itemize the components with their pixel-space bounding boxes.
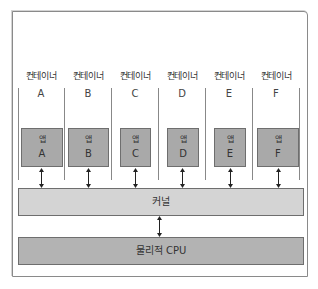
app-letter: D (168, 148, 198, 160)
double-arrow-icon (156, 216, 163, 237)
container-letter-d: D (157, 88, 207, 100)
container-label-f: 컨테이너 (251, 70, 301, 82)
kernel-label: 커널 (152, 196, 170, 207)
app-label: 앱 (22, 135, 62, 145)
container-divider (158, 88, 159, 180)
container-divider (64, 88, 65, 180)
app-label: 앱 (168, 135, 198, 145)
app-box-c: 앱 C (120, 128, 151, 167)
container-letter-b: B (63, 88, 113, 100)
app-letter: F (258, 148, 298, 160)
kernel-bar: 커널 (18, 188, 304, 216)
app-letter: B (69, 148, 108, 160)
container-letter-a: A (16, 88, 66, 100)
app-letter: C (121, 148, 150, 160)
container-letter-c: C (110, 88, 160, 100)
app-letter: E (215, 148, 245, 160)
double-arrow-icon (227, 168, 234, 188)
double-arrow-icon (38, 168, 45, 188)
container-divider (111, 88, 112, 180)
cpu-bar: 물리적 CPU (18, 237, 304, 265)
container-label-b: 컨테이너 (63, 70, 113, 82)
cpu-label: 물리적 CPU (136, 245, 187, 256)
container-letter-e: E (204, 88, 254, 100)
app-label: 앱 (69, 135, 108, 145)
app-label: 앱 (121, 135, 150, 145)
double-arrow-icon (132, 168, 139, 188)
app-label: 앱 (258, 135, 298, 145)
container-label-d: 컨테이너 (157, 70, 207, 82)
container-divider (299, 88, 300, 180)
container-label-e: 컨테이너 (204, 70, 254, 82)
app-label: 앱 (215, 135, 245, 145)
double-arrow-icon (275, 168, 282, 188)
container-label-c: 컨테이너 (110, 70, 160, 82)
container-divider (205, 88, 206, 180)
container-label-a: 컨테이너 (16, 70, 66, 82)
app-box-f: 앱 F (257, 128, 299, 167)
container-divider (18, 88, 19, 180)
double-arrow-icon (85, 168, 92, 188)
app-box-e: 앱 E (214, 128, 246, 167)
double-arrow-icon (179, 168, 186, 188)
app-box-b: 앱 B (68, 128, 109, 167)
container-divider (252, 88, 253, 180)
container-letter-f: F (251, 88, 301, 100)
app-box-a: 앱 A (21, 128, 63, 167)
app-box-d: 앱 D (167, 128, 199, 167)
app-letter: A (22, 148, 62, 160)
